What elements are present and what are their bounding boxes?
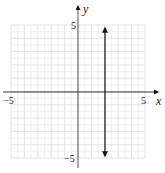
x-min-tick-label: −5 [3,95,14,106]
y-min-tick-label: −5 [64,153,75,164]
y-max-tick-label: 5 [71,20,76,31]
coordinate-plane: x y −5 5 5 −5 [0,0,165,173]
x-axis-label: x [155,94,162,108]
x-max-tick-label: 5 [141,95,146,106]
y-axis-label: y [82,2,89,16]
